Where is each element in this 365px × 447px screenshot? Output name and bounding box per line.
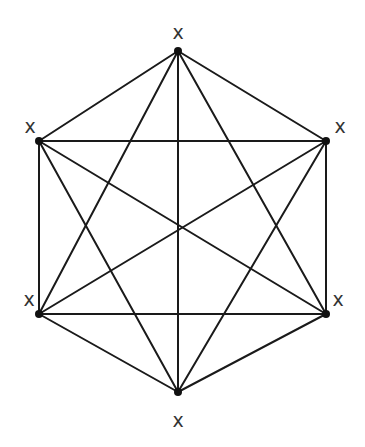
- vertex-upper-left: [35, 137, 43, 145]
- vertex-label-upper-right: x: [334, 115, 345, 137]
- edge-top-upper-right: [178, 51, 326, 141]
- vertex-label-top: x: [172, 21, 183, 43]
- vertex-lower-left: [35, 310, 43, 318]
- edge-top-lower-right: [178, 51, 326, 314]
- vertex-top: [174, 47, 182, 55]
- edge-top-upper-left: [39, 51, 178, 141]
- complete-graph-diagram: xxxxxx: [0, 0, 365, 447]
- vertex-label-upper-left: x: [24, 115, 35, 137]
- graph-edges: [39, 51, 326, 392]
- vertex-upper-right: [322, 137, 330, 145]
- vertex-bottom: [174, 388, 182, 396]
- vertex-label-lower-left: x: [23, 288, 34, 310]
- vertex-lower-right: [322, 310, 330, 318]
- vertex-label-lower-right: x: [332, 288, 343, 310]
- edge-upper-right-bottom: [178, 141, 326, 392]
- vertex-label-bottom: x: [172, 409, 183, 431]
- graph-vertices: [35, 47, 330, 396]
- edge-bottom-upper-left: [39, 141, 178, 392]
